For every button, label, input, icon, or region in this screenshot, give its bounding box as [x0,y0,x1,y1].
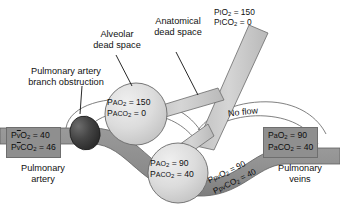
arterial-po2-gas-sub: 2 [284,134,287,140]
inspired-pco2-value: = 0 [240,17,252,27]
mixed-venous-po2-gas: O [20,130,27,140]
arterial-po2-value: = 90 [290,130,307,140]
alveolus1-paco2-sub: ACO [113,110,128,117]
alveolus1-paco2-value: = 0 [134,108,146,118]
mixed-venous-pco2-vbar: v [17,143,21,152]
obstruction-shape [66,113,103,153]
alveolus2-paco2: PACO2 = 40 [150,169,194,180]
mixed-venous-po2: PvO2 = 40 [11,130,56,142]
mixed-venous-pco2-value: = 46 [39,142,56,152]
inspired-pco2-gas: CO [222,17,235,27]
alveolus1-paco2: PACO2 = 0 [107,108,150,119]
label-pulmonary-artery-line1: Pulmonary [6,163,80,174]
callout-obstruction-line2: branch obstruction [10,77,122,88]
inspired-po2-value: = 150 [234,7,255,17]
label-pulmonary-artery: Pulmonary artery [6,163,80,185]
alveolus-dead-space-values: PAO2 = 150 PACO2 = 0 [107,97,150,120]
arterial-pco2: PaCO2 = 40 [268,142,313,154]
alveolus1-pao2-sub2: 2 [123,101,126,107]
arterial-pco2-value: = 40 [296,142,313,152]
mixed-venous-po2-v: v [17,132,21,139]
arterial-pco2-gas-sub: 2 [291,146,294,152]
alveolus1-pao2: PAO2 = 150 [107,97,150,108]
inspired-gas-values: PIO2 = 150 PICO2 = 0 [214,8,255,28]
mixed-venous-pco2-gas-sub: 2 [33,146,36,152]
alveolus2-paco2-value: = 40 [177,169,194,179]
callout-obstruction-line1: Pulmonary artery [10,66,122,77]
mixed-venous-values: PvO2 = 40 PvCO2 = 46 [6,127,61,158]
callout-anatomical-dead-space: Anatomical dead space [136,16,220,38]
alveolus-normal-values: PAO2 = 90 PACO2 = 40 [150,158,194,181]
inspired-pco2: PICO2 = 0 [214,18,255,28]
mixed-venous-pco2: PvCO2 = 46 [11,142,56,154]
alveolus2-pao2: PAO2 = 90 [150,158,194,169]
label-pulmonary-artery-line2: artery [6,174,80,185]
arterial-values: PaO2 = 90 PaCO2 = 40 [263,127,318,158]
alveolus1-pao2-sub: AO [113,99,123,106]
callout-alveolar-dead-space-line2: dead space [78,40,156,51]
alveolus2-pao2-value: = 90 [172,158,189,168]
mixed-venous-po2-vbar: v [17,131,21,140]
figure-canvas: Alveolar dead space Anatomical dead spac… [0,0,340,211]
alveolus2-paco2-sub: ACO [156,171,171,178]
alveolus2-pao2-sub: AO [156,160,166,167]
alveolus2-pao2-sub2: 2 [166,162,169,168]
label-pulmonary-veins-line1: Pulmonary [264,163,336,174]
arterial-po2: PaO2 = 90 [268,130,313,142]
callout-anatomical-dead-space-line2: dead space [136,27,220,38]
mixed-venous-pco2-gas: CO [20,142,33,152]
mixed-venous-pco2-v: v [17,144,21,151]
mixed-venous-po2-gas-sub: 2 [27,134,30,140]
alveolus2-paco2-sub2: 2 [171,174,174,180]
mixed-venous-po2-value: = 40 [33,130,50,140]
callout-anatomical-dead-space-line1: Anatomical [136,16,220,27]
alveolus1-pao2-value: = 150 [129,97,151,107]
callout-pulmonary-artery-branch-obstruction: Pulmonary artery branch obstruction [10,66,122,88]
label-pulmonary-veins: Pulmonary veins [264,163,336,185]
arterial-pco2-gas: CO [278,142,291,152]
label-pulmonary-veins-line2: veins [264,174,336,185]
inspired-pco2-gas-sub: 2 [234,21,237,27]
alveolus1-paco2-sub2: 2 [128,113,131,119]
